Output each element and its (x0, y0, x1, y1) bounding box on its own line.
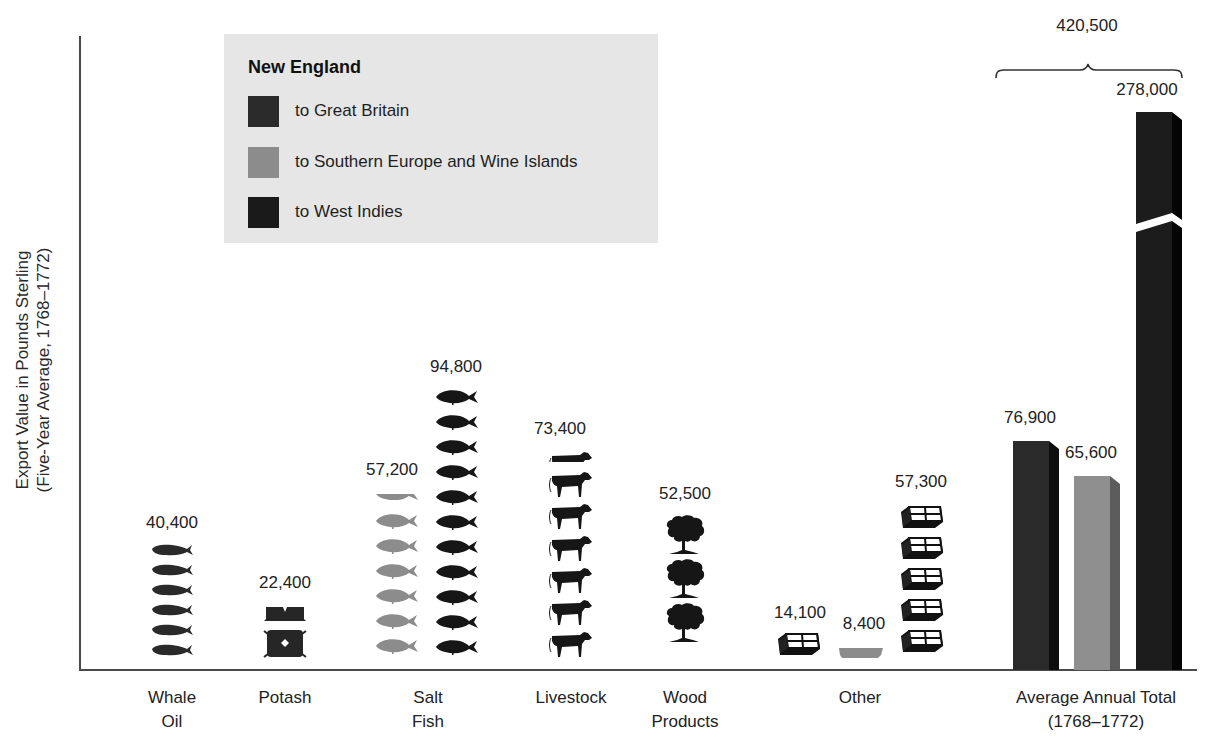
legend-title: New England (248, 57, 361, 78)
y-axis-label-line1: Export Value in Pounds Sterling (12, 180, 33, 560)
fish-icon (434, 538, 480, 556)
grand-total-label: 420,500 (1027, 16, 1147, 36)
legend-item-southern-europe: to Southern Europe and Wine Islands (248, 146, 578, 178)
legend-label: to West Indies (295, 202, 402, 222)
pictograph-partial-cow (548, 452, 594, 462)
tree-icon (662, 602, 708, 644)
pictograph-salt-fish-southern-europe (374, 512, 420, 655)
whale-icon (149, 623, 195, 637)
fish-icon (434, 588, 480, 606)
bar-total-southern-europe (1074, 476, 1120, 670)
cow-icon (548, 502, 594, 532)
pictograph-other-great-britain (776, 631, 822, 657)
pictograph-other-southern-europe (838, 645, 884, 657)
category-label-line2: Fish (328, 710, 528, 734)
fish-icon (434, 388, 480, 406)
whale-icon (149, 643, 195, 657)
pictograph-potash (262, 605, 308, 659)
legend-item-west-indies: to West Indies (248, 196, 402, 228)
category-label-other: Other (760, 686, 960, 710)
fish-icon (434, 488, 480, 506)
pictograph-wood-products (662, 514, 708, 644)
category-label-average-annual-total: Average Annual Total (1768–1772) (966, 686, 1212, 734)
partial-crate-icon (838, 647, 884, 659)
fish-icon (374, 637, 420, 655)
fish-icon (434, 438, 480, 456)
legend: New England to Great Britain to Southern… (224, 34, 658, 243)
fish-icon (434, 638, 480, 656)
value-label-potash: 22,400 (235, 573, 335, 593)
fish-icon (374, 537, 420, 555)
bar-shape (1013, 441, 1059, 670)
whale-icon (149, 543, 195, 557)
pictograph-salt-fish-west-indies (434, 388, 480, 656)
bar-shape-broken (1136, 112, 1182, 670)
legend-swatch-great-britain (248, 96, 279, 127)
value-label-livestock: 73,400 (510, 419, 610, 439)
category-label-line2: (1768–1772) (966, 710, 1212, 734)
category-label-line1: Average Annual Total (966, 686, 1212, 710)
cow-icon (548, 470, 594, 500)
total-brace (994, 40, 1184, 80)
y-axis-label-line2: (Five-Year Average, 1768–1772) (33, 180, 54, 560)
pictograph-partial-fish (374, 494, 420, 500)
legend-label: to Southern Europe and Wine Islands (295, 152, 578, 172)
fish-icon (374, 562, 420, 580)
crate-icon (899, 566, 945, 592)
value-label-total-great-britain: 76,900 (980, 408, 1080, 428)
bar-shape (1074, 476, 1120, 670)
category-label-line2: Products (585, 710, 785, 734)
value-label-total-west-indies: 278,000 (1097, 80, 1197, 100)
category-label-line1: Wood (585, 686, 785, 710)
fish-icon (434, 513, 480, 531)
value-label-wood-products: 52,500 (635, 484, 735, 504)
crate-icon (899, 628, 945, 654)
legend-item-great-britain: to Great Britain (248, 95, 409, 127)
whale-icon (149, 603, 195, 617)
category-label-wood-products: Wood Products (585, 686, 785, 734)
fish-icon (434, 413, 480, 431)
fish-icon (374, 612, 420, 630)
whale-icon (149, 583, 195, 597)
cow-icon (548, 534, 594, 564)
crate-icon (899, 504, 945, 530)
value-label-total-southern-europe: 65,600 (1041, 443, 1141, 463)
fish-icon (434, 463, 480, 481)
cow-icon (548, 566, 594, 596)
tree-icon (662, 514, 708, 556)
fish-icon (434, 613, 480, 631)
pictograph-whale-oil (149, 543, 195, 657)
category-label-line2: Oil (72, 710, 272, 734)
tree-icon (662, 558, 708, 600)
y-axis-label: Export Value in Pounds Sterling (Five-Ye… (12, 180, 72, 560)
legend-label: to Great Britain (295, 101, 409, 121)
fish-icon (434, 563, 480, 581)
value-label-salt-fish-southern-europe: 57,200 (342, 460, 442, 480)
pictograph-livestock (548, 470, 594, 660)
value-label-whale-oil: 40,400 (122, 513, 222, 533)
value-label-salt-fish-west-indies: 94,800 (406, 357, 506, 377)
legend-swatch-west-indies (248, 197, 279, 228)
crate-icon (776, 631, 822, 657)
fish-icon (374, 512, 420, 530)
whale-icon (149, 563, 195, 577)
pictograph-other-west-indies (899, 504, 945, 654)
cow-icon (548, 598, 594, 628)
y-axis-line (79, 36, 81, 671)
bar-total-west-indies (1136, 112, 1182, 670)
crate-icon (899, 535, 945, 561)
cow-icon (548, 452, 594, 462)
bar-total-great-britain (1013, 441, 1059, 670)
fish-icon (374, 587, 420, 605)
cow-icon (548, 630, 594, 660)
category-label-line1: Other (760, 686, 960, 710)
potash-barrel-icon (262, 629, 308, 659)
crate-icon (899, 597, 945, 623)
value-label-other-west-indies: 57,300 (871, 472, 971, 492)
fish-icon (374, 494, 420, 500)
potash-barrel-lid-icon (262, 605, 308, 623)
legend-swatch-southern-europe (248, 147, 279, 178)
